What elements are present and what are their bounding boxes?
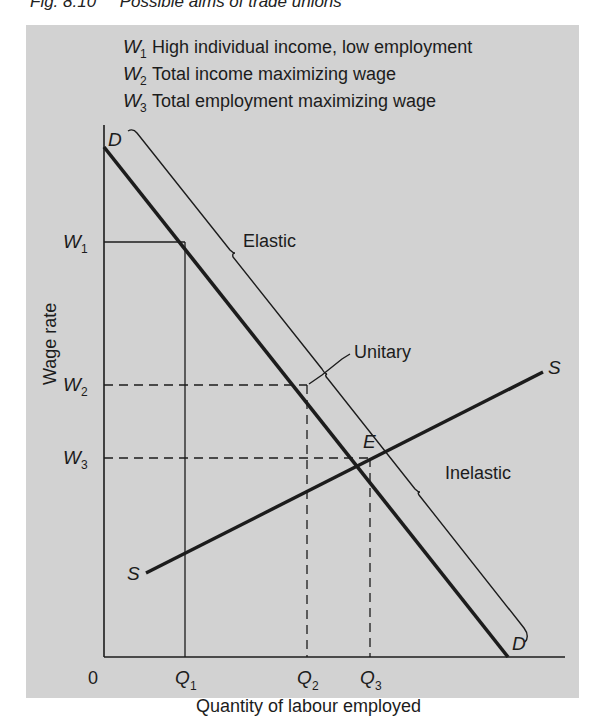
unitary-pointer <box>309 354 350 384</box>
y-tick-w3-sub: 3 <box>81 458 88 472</box>
demand-label-bottom: D <box>512 633 526 654</box>
elasticity-brace-path <box>128 130 527 642</box>
supply-label-top: S <box>548 357 561 378</box>
legend-text-w2: Total income maximizing wage <box>152 64 396 84</box>
legend-text-w3: Total employment maximizing wage <box>152 91 436 111</box>
legend-text-w1: High individual income, low employment <box>152 37 472 57</box>
equilibrium-label: E <box>363 431 376 452</box>
elastic-label: Elastic <box>243 231 296 251</box>
x-tick-q3: Q <box>360 667 375 688</box>
y-tick-w2: W <box>63 374 83 395</box>
x-tick-q2: Q <box>297 667 312 688</box>
legend-sub-w2: 2 <box>140 74 147 88</box>
y-tick-w1: W <box>63 231 83 252</box>
x-tick-q1: Q <box>175 667 190 688</box>
elasticity-bracket <box>128 130 527 642</box>
x-tick-q3-sub: 3 <box>375 679 382 693</box>
inelastic-label: Inelastic <box>445 463 511 483</box>
x-axis-title: Quantity of labour employed <box>196 696 421 716</box>
legend-sub-w3: 3 <box>140 101 147 115</box>
unitary-label: Unitary <box>354 342 411 362</box>
x-tick-q1-sub: 1 <box>190 679 197 693</box>
demand-curve <box>104 147 508 657</box>
y-tick-w2-sub: 2 <box>81 385 88 399</box>
y-tick-w3: W <box>63 447 83 468</box>
y-axis-title: Wage rate <box>40 303 60 385</box>
chart-svg: W 1 High individual income, low employme… <box>0 0 599 717</box>
legend: W 1 High individual income, low employme… <box>123 36 472 115</box>
legend-sub-w1: 1 <box>140 47 147 61</box>
demand-label-top: D <box>108 129 122 150</box>
origin-label: 0 <box>88 668 98 688</box>
y-tick-w1-sub: 1 <box>81 242 88 256</box>
x-tick-q2-sub: 2 <box>312 679 319 693</box>
supply-label-bottom: S <box>127 563 140 584</box>
